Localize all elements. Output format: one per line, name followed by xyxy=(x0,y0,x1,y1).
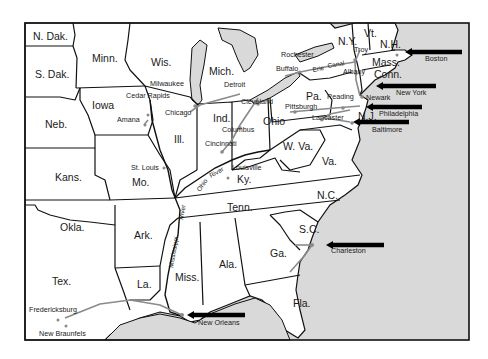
state-label-va: Va. xyxy=(322,155,337,167)
city-label-st-louis: St. Louis xyxy=(131,163,159,172)
state-label-ind: Ind. xyxy=(213,112,231,124)
state-label-tex: Tex. xyxy=(52,275,71,287)
city-label-fredericksburg: Fredericksburg xyxy=(29,305,77,314)
immigration-routes-map: N. Dak.S. Dak.Minn.Wis.Mich.IowaNeb.Ill.… xyxy=(0,0,488,359)
city-label-pittsburgh: Pittsburgh xyxy=(285,102,317,111)
state-label-pa: Pa. xyxy=(306,90,322,102)
state-label-okla: Okla. xyxy=(60,221,85,233)
city-label-troy: Troy xyxy=(354,45,369,54)
state-label-minn: Minn. xyxy=(92,52,118,64)
state-label-n-j: N.J. xyxy=(358,110,377,122)
city-label-reading: Reading xyxy=(327,92,354,101)
city-label-cincinnati: Cincinnati xyxy=(205,139,237,148)
state-label-n-dak: N. Dak. xyxy=(33,30,68,42)
state-label-tenn: Tenn. xyxy=(227,201,253,213)
city-label-newark: Newark xyxy=(366,93,391,102)
state-label-ill: Ill. xyxy=(174,133,185,145)
city-label-cedar-rapids: Cedar Rapids xyxy=(126,91,170,100)
state-label-w-va: W. Va. xyxy=(283,140,313,152)
state-label-la: La. xyxy=(137,278,152,290)
state-label-ga: Ga. xyxy=(270,247,287,259)
state-label-ohio: Ohio xyxy=(263,115,285,127)
state-label-ark: Ark. xyxy=(134,229,153,241)
city-label-charleston: Charleston xyxy=(331,246,366,255)
state-label-conn: Conn. xyxy=(374,68,402,80)
city-label-louisville: Louisville xyxy=(232,163,262,172)
city-label-baltimore: Baltimore xyxy=(372,125,402,134)
city-label-milwaukee: Milwaukee xyxy=(150,79,184,88)
state-label-s-c: S.C. xyxy=(299,223,319,235)
city-label-detroit: Detroit xyxy=(224,80,245,89)
state-label-ky: Ky. xyxy=(237,173,251,185)
city-label-boston: Boston xyxy=(425,54,447,63)
state-label-s-dak: S. Dak. xyxy=(35,68,69,80)
state-label-fla: Fla. xyxy=(293,297,311,309)
city-label-new-braunfels: New Braunfels xyxy=(39,329,86,338)
state-label-iowa: Iowa xyxy=(92,99,114,111)
state-label-ala: Ala. xyxy=(219,258,237,270)
state-label-kans: Kans. xyxy=(55,171,82,183)
state-label-wis: Wis. xyxy=(151,56,171,68)
city-label-rochester: Rochester xyxy=(281,50,314,59)
state-label-miss: Miss. xyxy=(175,271,200,283)
city-label-cleveland: Cleveland xyxy=(241,97,273,106)
state-label-mo: Mo. xyxy=(132,176,150,188)
state-label-n-h: N.H. xyxy=(380,38,401,50)
city-label-buffalo: Buffalo xyxy=(276,64,298,73)
city-label-albany: Albany xyxy=(343,67,365,76)
city-label-new-york: New York xyxy=(396,88,427,97)
state-label-mich: Mich. xyxy=(209,65,234,77)
state-label-n-c: N.C. xyxy=(317,189,338,201)
city-label-philadelphia: Philadelphia xyxy=(379,109,418,118)
state-label-mass: Mass. xyxy=(372,56,400,68)
city-label-new-orleans: New Orleans xyxy=(198,318,240,327)
state-label-neb: Neb. xyxy=(45,118,67,130)
city-label-chicago: Chicago xyxy=(165,108,191,117)
state-label-vt: Vt. xyxy=(364,27,377,39)
city-label-lancaster: Lancaster xyxy=(312,113,344,122)
city-label-amana: Amana xyxy=(117,115,140,124)
city-label-columbus: Columbus xyxy=(222,125,255,134)
